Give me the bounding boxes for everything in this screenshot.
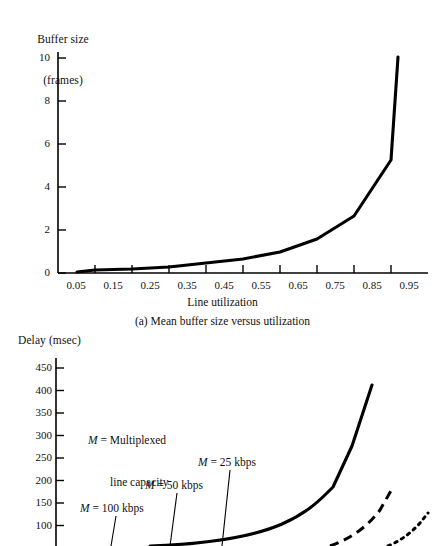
- panel-a-x-tick-0-95: 0.95: [390, 279, 428, 291]
- panel-b-curve-label-m-25kbps: M = 25 kbps: [198, 456, 256, 468]
- panel-a-y-tick-6: 6: [24, 137, 50, 149]
- panel-b-curve-label-m-100kbps: M = 100 kbps: [80, 502, 144, 514]
- chart-panel-a: Buffer size (frames): [0, 0, 445, 330]
- figure-container: Buffer size (frames): [0, 0, 445, 546]
- panel-a-x-tick-0-85: 0.85: [353, 279, 391, 291]
- panel-b-legend-note-symbol: M: [88, 434, 98, 446]
- panel-a-y-tick-2: 2: [24, 223, 50, 235]
- panel-b-y-tick-100: 100: [18, 519, 52, 531]
- panel-b-y-tick-300: 300: [18, 429, 52, 441]
- panel-b-legend-note-line1: M = Multiplexed: [88, 433, 168, 447]
- panel-b-curve-label-m-25kbps-symbol: M: [198, 456, 208, 468]
- panel-b-y-tick-250: 250: [18, 451, 52, 463]
- panel-b-curve-label-m-50kbps-symbol: M: [145, 479, 155, 491]
- panel-a-caption: (a) Mean buffer size versus utilization: [0, 315, 445, 327]
- panel-a-x-tick-0-15: 0.15: [94, 279, 132, 291]
- panel-b-y-tick-450: 450: [18, 361, 52, 373]
- panel-a-x-tick-0-55: 0.55: [242, 279, 280, 291]
- panel-b-y-tick-150: 150: [18, 496, 52, 508]
- panel-a-x-tick-0-75: 0.75: [316, 279, 354, 291]
- panel-b-y-tick-350: 350: [18, 406, 52, 418]
- panel-a-x-tick-0-65: 0.65: [279, 279, 317, 291]
- panel-b-series-m-100kbps: [150, 385, 372, 546]
- panel-a-x-axis-name: Line utilization: [0, 296, 445, 308]
- panel-a-x-tick-0-05: 0.05: [57, 279, 95, 291]
- panel-b-y-tick-400: 400: [18, 384, 52, 396]
- panel-b-curve-label-m-50kbps: M = 50 kbps: [145, 479, 203, 491]
- panel-b-series-m-25kbps: [388, 513, 428, 546]
- panel-a-y-ticks: [58, 58, 66, 273]
- panel-b-curve-label-m-50kbps-text: = 50 kbps: [155, 479, 203, 491]
- panel-b-series-m-50kbps: [330, 489, 392, 546]
- panel-a-series-mean-buffer-size: [77, 57, 398, 272]
- panel-b-curve-label-m-100kbps-text: = 100 kbps: [90, 502, 144, 514]
- panel-a-x-tick-0-45: 0.45: [205, 279, 243, 291]
- panel-b-curve-label-m-25kbps-text: = 25 kbps: [208, 456, 256, 468]
- panel-a-x-tick-0-35: 0.35: [168, 279, 206, 291]
- panel-b-plot: [0, 330, 445, 546]
- panel-a-y-tick-0: 0: [24, 266, 50, 278]
- panel-b-y-ticks: [56, 368, 64, 526]
- panel-b-y-tick-200: 200: [18, 474, 52, 486]
- panel-a-y-tick-10: 10: [24, 51, 50, 63]
- panel-a-y-tick-4: 4: [24, 180, 50, 192]
- panel-a-x-tick-0-25: 0.25: [131, 279, 169, 291]
- panel-a-y-tick-8: 8: [24, 94, 50, 106]
- panel-b-curve-label-m-100kbps-symbol: M: [80, 502, 90, 514]
- panel-b-legend-note: M = Multiplexed line capacity: [88, 405, 168, 517]
- panel-b-legend-note-line1-rest: = Multiplexed: [98, 434, 166, 446]
- chart-panel-b: Delay (msec): [0, 330, 445, 546]
